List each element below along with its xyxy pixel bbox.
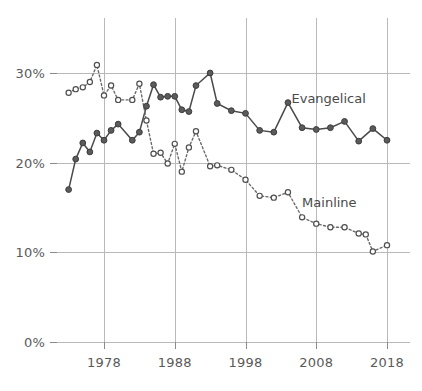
data-point-mainline-2004	[285, 190, 290, 195]
data-point-mainline-1991	[193, 129, 198, 134]
data-point-evangelical-1979	[108, 127, 114, 133]
chart-container: 0%10%20%30% 19781988199820082018 Evangel…	[0, 0, 422, 391]
data-point-evangelical-2008	[313, 127, 319, 133]
data-point-mainline-2010	[328, 225, 333, 230]
data-point-mainline-2006	[300, 215, 305, 220]
series-line-evangelical	[69, 73, 387, 190]
axis-tickmarks	[50, 74, 388, 350]
data-point-evangelical-1994	[214, 101, 220, 107]
data-point-mainline-1983	[137, 81, 142, 86]
data-point-evangelical-2004	[285, 100, 291, 106]
data-point-evangelical-1975	[80, 140, 86, 146]
data-point-evangelical-1984	[144, 103, 150, 109]
data-point-evangelical-1990	[186, 109, 192, 115]
data-point-mainline-1998	[243, 177, 248, 182]
series-inline-labels: EvangelicalMainline	[291, 91, 365, 209]
data-point-mainline-2000	[257, 193, 262, 198]
x-tick-label-2018: 2018	[370, 355, 404, 370]
y-tick-label-30: 30%	[16, 66, 46, 81]
y-tick-label-20: 20%	[16, 156, 46, 171]
data-point-mainline-1990	[186, 145, 191, 150]
line-chart: 0%10%20%30% 19781988199820082018 Evangel…	[0, 0, 422, 391]
data-point-mainline-1985	[151, 151, 156, 156]
x-tick-label-1988: 1988	[158, 355, 192, 370]
data-point-mainline-1996	[229, 167, 234, 172]
data-point-evangelical-1978	[101, 137, 107, 143]
data-point-mainline-1984	[144, 118, 149, 123]
data-point-mainline-1977	[94, 62, 99, 67]
data-point-mainline-2016	[370, 249, 375, 254]
data-point-mainline-1979	[108, 83, 113, 88]
y-gridlines	[57, 74, 410, 343]
x-tick-label-1978: 1978	[87, 355, 121, 370]
y-tick-label-10: 10%	[16, 245, 46, 260]
data-point-evangelical-1993	[207, 70, 213, 76]
evangelical-label: Evangelical	[291, 91, 365, 106]
data-point-evangelical-2002	[271, 129, 277, 135]
data-point-evangelical-2010	[328, 125, 334, 131]
data-point-mainline-1989	[179, 169, 184, 174]
data-point-mainline-1976	[87, 79, 92, 84]
data-point-mainline-1993	[208, 164, 213, 169]
data-point-mainline-1994	[215, 163, 220, 168]
data-point-evangelical-1983	[136, 129, 142, 135]
data-point-mainline-2008	[314, 221, 319, 226]
data-point-evangelical-2016	[370, 126, 376, 132]
data-point-evangelical-1973	[66, 187, 72, 193]
data-point-evangelical-1986	[158, 94, 164, 100]
data-point-evangelical-1976	[87, 149, 93, 155]
data-point-mainline-1980	[116, 97, 121, 102]
data-point-mainline-2014	[356, 231, 361, 236]
y-axis-tick-labels: 0%10%20%30%	[16, 66, 46, 350]
x-tick-label-1998: 1998	[229, 355, 263, 370]
x-axis-tick-labels: 19781988199820082018	[87, 355, 404, 370]
data-point-evangelical-1989	[179, 107, 185, 113]
y-tick-label-0: 0%	[24, 335, 45, 350]
data-point-evangelical-1998	[243, 110, 249, 116]
data-point-mainline-1982	[130, 97, 135, 102]
data-point-mainline-1988	[172, 141, 177, 146]
data-point-evangelical-1987	[165, 93, 171, 99]
data-point-mainline-1978	[101, 93, 106, 98]
data-point-mainline-1973	[66, 90, 71, 95]
x-tick-label-2008: 2008	[299, 355, 333, 370]
data-point-mainline-1987	[165, 161, 170, 166]
data-point-mainline-1974	[73, 87, 78, 92]
data-point-mainline-2002	[271, 195, 276, 200]
data-point-mainline-1986	[158, 150, 163, 155]
data-point-evangelical-2012	[342, 119, 348, 125]
data-point-mainline-2012	[342, 225, 347, 230]
data-point-evangelical-2000	[257, 127, 263, 133]
data-point-evangelical-2014	[356, 138, 362, 144]
data-point-evangelical-1985	[151, 82, 157, 88]
data-point-evangelical-2018	[384, 137, 390, 143]
data-point-evangelical-1980	[115, 121, 121, 127]
data-point-evangelical-1977	[94, 130, 100, 136]
data-point-evangelical-1996	[228, 108, 234, 114]
data-point-evangelical-1974	[73, 156, 79, 162]
data-point-mainline-2018	[384, 243, 389, 248]
data-point-mainline-2015	[363, 232, 368, 237]
data-point-evangelical-2006	[299, 125, 305, 131]
data-point-evangelical-1991	[193, 83, 199, 89]
mainline-label: Mainline	[302, 195, 357, 210]
data-point-evangelical-1988	[172, 93, 178, 99]
data-point-mainline-1975	[80, 85, 85, 90]
data-point-evangelical-1982	[129, 137, 135, 143]
